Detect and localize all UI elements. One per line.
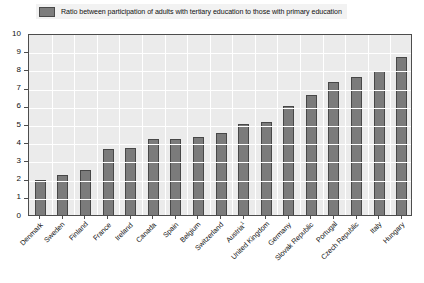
gridline-vertical	[300, 35, 301, 215]
gridline-horizontal	[29, 53, 411, 54]
y-axis-tick-label: 8	[17, 65, 21, 75]
footnote-marker: 1	[239, 219, 245, 225]
x-axis-tick-mark	[197, 216, 198, 219]
bar	[216, 133, 227, 215]
y-axis-tick-label: 9	[17, 47, 21, 57]
bar	[238, 124, 249, 215]
gridline-vertical	[142, 35, 143, 215]
y-axis-tick-label: 0	[17, 211, 21, 221]
x-axis-tick-mark	[130, 216, 131, 219]
x-axis-tick-mark	[220, 216, 221, 219]
y-axis-tick-label: 7	[17, 83, 21, 93]
bar	[193, 137, 204, 215]
gridline-horizontal	[29, 181, 411, 182]
gridline-horizontal	[29, 90, 411, 91]
y-axis: 012345678910	[0, 34, 28, 216]
chart-legend: Ratio between participation of adults wi…	[36, 4, 347, 19]
bar	[103, 149, 114, 215]
x-axis-tick-mark	[310, 216, 311, 219]
gridline-vertical	[323, 35, 324, 215]
x-axis-tick-mark	[39, 216, 40, 219]
legend-swatch-icon	[39, 7, 55, 17]
x-axis-tick-mark	[107, 216, 108, 219]
x-axis-tick-label: Spain	[161, 220, 180, 239]
gridline-horizontal	[29, 144, 411, 145]
x-axis-tick-mark	[356, 216, 357, 219]
y-axis-tick-label: 1	[17, 192, 21, 202]
bar	[328, 82, 339, 215]
gridline-horizontal	[29, 199, 411, 200]
x-axis-tick-label: France	[91, 220, 113, 242]
gridline-vertical	[97, 35, 98, 215]
gridline-horizontal	[29, 126, 411, 127]
x-axis: DenmarkSwedenFinlandFranceIrelandCanadaS…	[28, 216, 412, 283]
gridline-vertical	[345, 35, 346, 215]
x-axis-tick-label: Finland	[67, 220, 90, 243]
x-axis-tick-label: Denmark	[18, 220, 45, 247]
gridline-horizontal	[29, 162, 411, 163]
gridline-vertical	[74, 35, 75, 215]
bar	[351, 77, 362, 215]
x-axis-tick-label: Italy	[368, 220, 384, 236]
x-axis-tick-label: Sweden	[42, 220, 67, 245]
y-axis-tick-label: 4	[17, 138, 21, 148]
y-axis-tick-label: 3	[17, 156, 21, 166]
x-axis-tick-mark	[288, 216, 289, 219]
plot-area	[28, 34, 412, 216]
bar	[80, 170, 91, 216]
legend-label: Ratio between participation of adults wi…	[61, 8, 342, 16]
gridline-vertical	[165, 35, 166, 215]
x-axis-tick-mark	[84, 216, 85, 219]
y-axis-tick-label: 5	[17, 120, 21, 130]
gridline-vertical	[210, 35, 211, 215]
x-axis-tick-mark	[333, 216, 334, 219]
x-axis-tick-label: Ireland	[113, 220, 135, 242]
gridline-horizontal	[29, 108, 411, 109]
x-axis-tick-mark	[62, 216, 63, 219]
y-axis-tick-label: 6	[17, 101, 21, 111]
y-axis-tick-label: 2	[17, 174, 21, 184]
gridline-horizontal	[29, 71, 411, 72]
x-axis-tick-mark	[401, 216, 402, 219]
x-axis-tick-mark	[378, 216, 379, 219]
gridline-vertical	[119, 35, 120, 215]
x-axis-tick-mark	[243, 216, 244, 219]
gridline-vertical	[390, 35, 391, 215]
gridline-vertical	[232, 35, 233, 215]
gridline-vertical	[368, 35, 369, 215]
y-axis-tick-label: 10	[12, 29, 21, 39]
bar-chart: Ratio between participation of adults wi…	[0, 0, 424, 283]
x-axis-tick-mark	[152, 216, 153, 219]
bar	[396, 57, 407, 215]
x-axis-tick-label: Canada	[134, 220, 158, 244]
gridline-vertical	[187, 35, 188, 215]
gridline-vertical	[255, 35, 256, 215]
x-axis-tick-label: Hungary	[381, 220, 406, 245]
gridline-vertical	[277, 35, 278, 215]
gridline-vertical	[52, 35, 53, 215]
bars-layer	[29, 35, 411, 215]
bar	[261, 122, 272, 215]
bar	[170, 139, 181, 215]
bar	[148, 139, 159, 215]
bar	[35, 180, 46, 215]
bar	[374, 71, 385, 215]
x-axis-tick-mark	[265, 216, 266, 219]
bar	[306, 95, 317, 215]
x-axis-tick-mark	[175, 216, 176, 219]
